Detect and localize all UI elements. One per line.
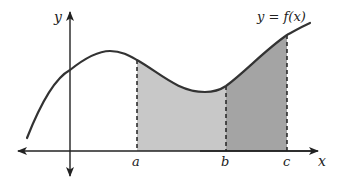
y-axis-label: y: [53, 9, 63, 25]
point-label-c: c: [283, 154, 291, 169]
point-label-a: a: [132, 154, 140, 169]
x-axis-label: x: [318, 153, 326, 169]
point-label-b: b: [221, 154, 229, 169]
region-a-to-b: [137, 60, 226, 151]
area-under-curve-diagram: y x y = f(x) a b c: [0, 0, 346, 181]
curve-label: y = f(x): [256, 9, 306, 24]
region-b-to-c: [226, 35, 287, 151]
